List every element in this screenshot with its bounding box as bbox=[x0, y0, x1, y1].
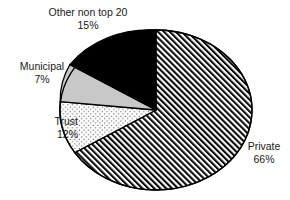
pie-label-trust: Trust 12% bbox=[6, 115, 78, 140]
pie-label-municipal-name: Municipal bbox=[6, 60, 78, 73]
pie-label-private-name: Private bbox=[240, 140, 288, 153]
pie-label-trust-value: 12% bbox=[6, 128, 78, 141]
pie-label-municipal-value: 7% bbox=[6, 73, 78, 86]
pie-label-private: Private 66% bbox=[240, 140, 288, 165]
pie-label-private-value: 66% bbox=[240, 153, 288, 166]
pie-label-municipal: Municipal 7% bbox=[6, 60, 78, 85]
pie-label-trust-name: Trust bbox=[6, 115, 78, 128]
pie-label-other-non-top-20-name: Other non top 20 bbox=[32, 6, 144, 19]
pie-label-other-non-top-20-value: 15% bbox=[32, 19, 144, 32]
pie-label-other-non-top-20: Other non top 20 15% bbox=[32, 6, 144, 31]
pie-chart-figure: Other non top 20 15% Municipal 7% Trust … bbox=[0, 0, 290, 200]
